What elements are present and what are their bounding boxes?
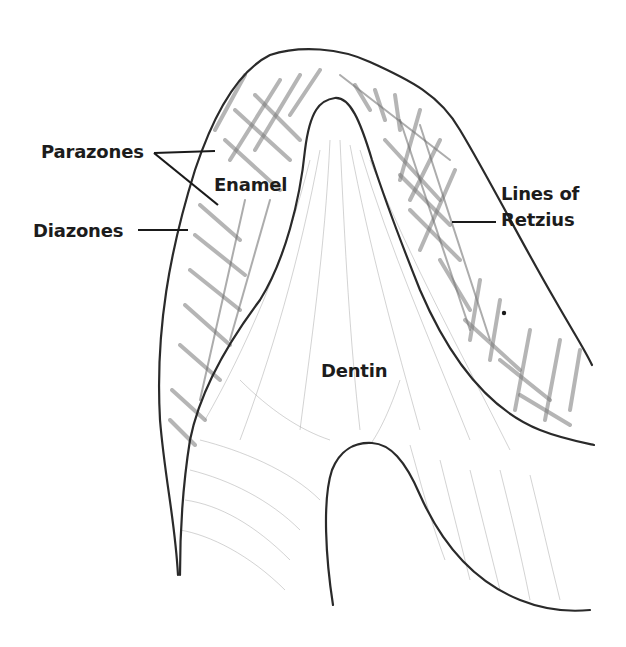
pulp-chamber bbox=[326, 443, 590, 611]
tooth-illustration bbox=[0, 0, 626, 647]
label-diazones: Diazones bbox=[33, 220, 123, 242]
enamel-hatching bbox=[170, 70, 580, 445]
label-enamel: Enamel bbox=[214, 174, 287, 196]
enamel-outer-surface bbox=[159, 49, 592, 575]
tooth-diagram: Parazones Enamel Diazones Lines of Retzi… bbox=[0, 0, 626, 647]
label-parazones: Parazones bbox=[41, 141, 144, 163]
label-lines-of-retzius-line1: Lines of bbox=[501, 183, 579, 205]
dentino-enamel-junction bbox=[180, 98, 594, 575]
parazones-leader-upper bbox=[154, 151, 215, 153]
label-lines-of-retzius-line2: Retzius bbox=[501, 209, 574, 231]
label-dentin: Dentin bbox=[321, 360, 387, 382]
